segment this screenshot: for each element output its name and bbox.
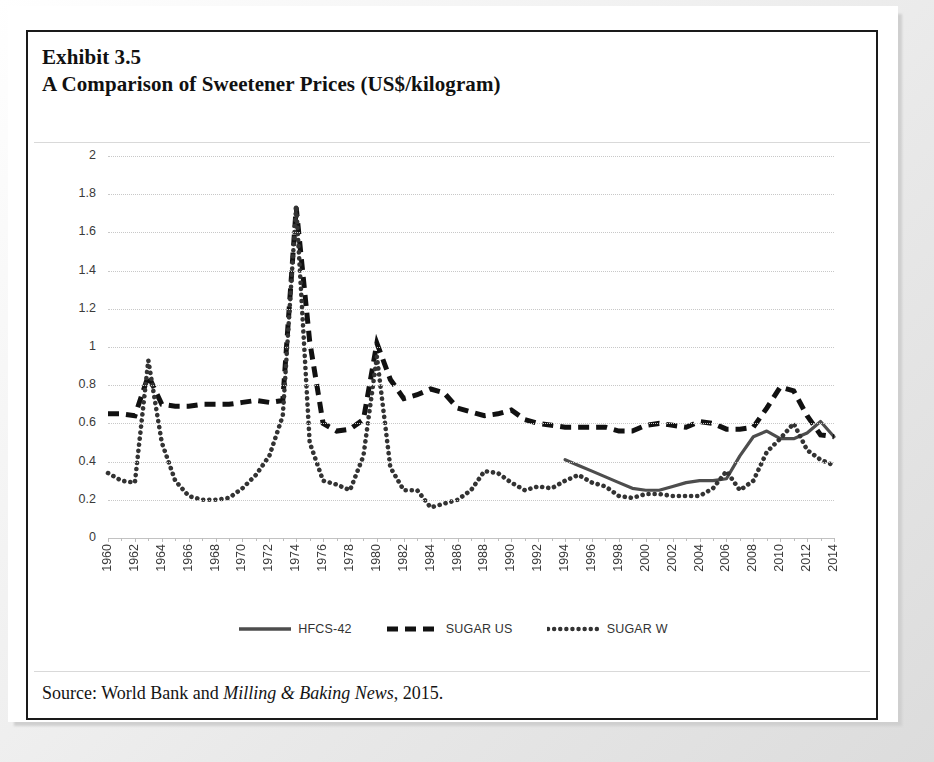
- x-axis-minor-tick: [471, 538, 472, 541]
- x-axis-tick-label: 1992: [531, 544, 544, 572]
- gridline: [108, 194, 834, 196]
- x-axis-tick-label: 1968: [209, 544, 222, 572]
- x-axis-tick: [350, 538, 351, 542]
- x-axis-tick-label: 1976: [316, 544, 329, 572]
- x-axis-tick-label: 1988: [477, 544, 490, 572]
- legend-swatch-dotted: [547, 624, 601, 634]
- gridline: [108, 385, 834, 387]
- x-axis-tick: [404, 538, 405, 542]
- gridline: [108, 271, 834, 273]
- x-axis-tick-label: 1984: [424, 544, 437, 572]
- series-line-sugar-us: [108, 208, 834, 437]
- x-axis-tick-label: 2004: [693, 544, 706, 572]
- source-publication: Milling & Baking News: [223, 683, 394, 703]
- source-divider: [34, 671, 870, 672]
- x-axis-minor-tick: [390, 538, 391, 541]
- x-axis-tick: [807, 538, 808, 542]
- x-axis-tick: [431, 538, 432, 542]
- y-axis-tick-label: 1.8: [50, 186, 96, 200]
- exhibit-header: Exhibit 3.5 A Comparison of Sweetener Pr…: [42, 44, 866, 98]
- y-axis-tick-label: 1.2: [50, 301, 96, 315]
- x-axis-tick-label: 1960: [101, 544, 114, 572]
- x-axis-tick: [242, 538, 243, 542]
- x-axis-tick: [700, 538, 701, 542]
- x-axis-tick-label: 1978: [343, 544, 356, 572]
- x-axis-tick: [511, 538, 512, 542]
- source-suffix: , 2015.: [394, 683, 444, 703]
- x-axis-tick-label: 2006: [719, 544, 732, 572]
- x-axis-tick-label: 1994: [558, 544, 571, 572]
- x-axis-tick-label: 1972: [262, 544, 275, 572]
- x-axis-tick-label: 1964: [155, 544, 168, 572]
- x-axis-minor-tick: [740, 538, 741, 541]
- y-axis-tick-label: 0.4: [50, 454, 96, 468]
- legend-item-sugar-w[interactable]: SUGAR W: [547, 622, 668, 636]
- x-axis-tick: [135, 538, 136, 542]
- header-divider: [34, 142, 870, 143]
- x-axis-tick-label: 2008: [746, 544, 759, 572]
- x-axis-minor-tick: [632, 538, 633, 541]
- x-axis-minor-tick: [767, 538, 768, 541]
- x-axis-tick: [377, 538, 378, 542]
- source-prefix: Source: World Bank and: [42, 683, 223, 703]
- x-axis-minor-tick: [417, 538, 418, 541]
- legend-swatch-dashed: [386, 624, 440, 634]
- legend-label: SUGAR W: [607, 622, 668, 636]
- x-axis-minor-tick: [794, 538, 795, 541]
- x-axis-minor-tick: [579, 538, 580, 541]
- x-axis-tick: [162, 538, 163, 542]
- y-axis-tick-label: 0.8: [50, 377, 96, 391]
- x-axis-tick: [108, 538, 109, 542]
- x-axis-minor-tick: [202, 538, 203, 541]
- x-axis-minor-tick: [498, 538, 499, 541]
- legend-item-sugar-us[interactable]: SUGAR US: [386, 622, 513, 636]
- x-axis-tick-label: 2014: [827, 544, 840, 572]
- legend-label: HFCS-42: [298, 622, 352, 636]
- x-axis-tick: [296, 538, 297, 542]
- x-axis-minor-tick: [605, 538, 606, 541]
- x-axis-tick: [646, 538, 647, 542]
- x-axis-minor-tick: [148, 538, 149, 541]
- x-axis-minor-tick: [175, 538, 176, 541]
- y-axis-tick-label: 0.6: [50, 415, 96, 429]
- x-axis-tick-label: 1966: [182, 544, 195, 572]
- x-axis-tick: [619, 538, 620, 542]
- x-axis-tick: [458, 538, 459, 542]
- x-axis-minor-tick: [256, 538, 257, 541]
- x-axis-minor-tick: [310, 538, 311, 541]
- chart-legend: HFCS-42SUGAR USSUGAR W: [34, 614, 872, 644]
- x-axis-tick-label: 1970: [235, 544, 248, 572]
- x-axis-tick: [216, 538, 217, 542]
- exhibit-frame: Exhibit 3.5 A Comparison of Sweetener Pr…: [26, 30, 878, 720]
- y-axis-tick-label: 2: [50, 148, 96, 162]
- x-axis-tick-label: 2010: [773, 544, 786, 572]
- x-axis-minor-tick: [363, 538, 364, 541]
- x-axis-tick-label: 1996: [585, 544, 598, 572]
- x-axis-tick: [484, 538, 485, 542]
- x-axis-minor-tick: [713, 538, 714, 541]
- x-axis-minor-tick: [686, 538, 687, 541]
- gridline: [108, 347, 834, 349]
- x-axis-tick-label: 1986: [451, 544, 464, 572]
- x-axis-tick: [673, 538, 674, 542]
- x-axis-minor-tick: [283, 538, 284, 541]
- y-axis-tick-label: 1.4: [50, 263, 96, 277]
- x-axis-tick-label: 2000: [639, 544, 652, 572]
- x-axis-tick: [538, 538, 539, 542]
- x-axis-tick: [323, 538, 324, 542]
- y-axis-tick-label: 1: [50, 339, 96, 353]
- legend-label: SUGAR US: [446, 622, 513, 636]
- legend-item-hfcs-42[interactable]: HFCS-42: [238, 622, 352, 636]
- x-axis-tick: [269, 538, 270, 542]
- series-line-hfcs-42: [565, 421, 834, 490]
- x-axis-tick-label: 1990: [504, 544, 517, 572]
- x-axis-tick: [753, 538, 754, 542]
- gridline: [108, 462, 834, 464]
- x-axis-minor-tick: [659, 538, 660, 541]
- y-axis-tick-label: 1.6: [50, 224, 96, 238]
- x-axis-minor-tick: [444, 538, 445, 541]
- x-axis-tick: [834, 538, 835, 542]
- x-axis-tick-label: 1980: [370, 544, 383, 572]
- x-axis-tick-label: 1982: [397, 544, 410, 572]
- plot-region: [108, 156, 834, 538]
